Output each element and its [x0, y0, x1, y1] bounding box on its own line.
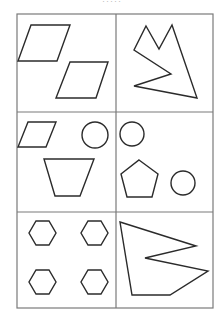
parallelogram-shape — [56, 62, 108, 98]
circle-shape — [120, 122, 144, 146]
cell-r2c2 — [120, 122, 195, 197]
concave-polygon-shape — [120, 222, 208, 295]
shape-grid — [0, 0, 224, 329]
cell-r3c2 — [120, 222, 208, 295]
puzzle-figure: ····· — [0, 0, 224, 329]
cell-r1c2 — [134, 25, 197, 98]
hexagon-shape — [29, 221, 56, 245]
pentagon-shape — [121, 160, 158, 197]
hexagon-shape — [81, 221, 108, 245]
circle-shape — [82, 122, 108, 148]
cell-r1c1 — [18, 25, 108, 98]
hexagon-shape — [29, 270, 56, 294]
cell-r3c1 — [29, 221, 108, 294]
concave-polygon-shape — [134, 25, 197, 98]
parallelogram-shape — [18, 25, 70, 61]
cell-r2c1 — [18, 122, 108, 196]
parallelogram-shape — [18, 122, 56, 147]
trapezoid-shape — [44, 159, 94, 196]
circle-shape — [171, 171, 195, 195]
hexagon-shape — [81, 270, 108, 294]
